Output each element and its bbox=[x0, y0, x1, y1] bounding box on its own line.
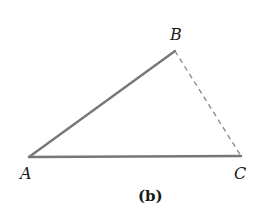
figure-caption: (b) bbox=[138, 187, 163, 205]
segment-ab bbox=[29, 51, 175, 157]
triangle-diagram: B A C (b) bbox=[0, 0, 269, 205]
segment-bc-dashed bbox=[175, 51, 241, 156]
segment-ac bbox=[29, 156, 241, 157]
vertex-label-b: B bbox=[169, 25, 182, 44]
vertex-label-a: A bbox=[18, 164, 32, 183]
vertex-label-c: C bbox=[234, 164, 246, 183]
